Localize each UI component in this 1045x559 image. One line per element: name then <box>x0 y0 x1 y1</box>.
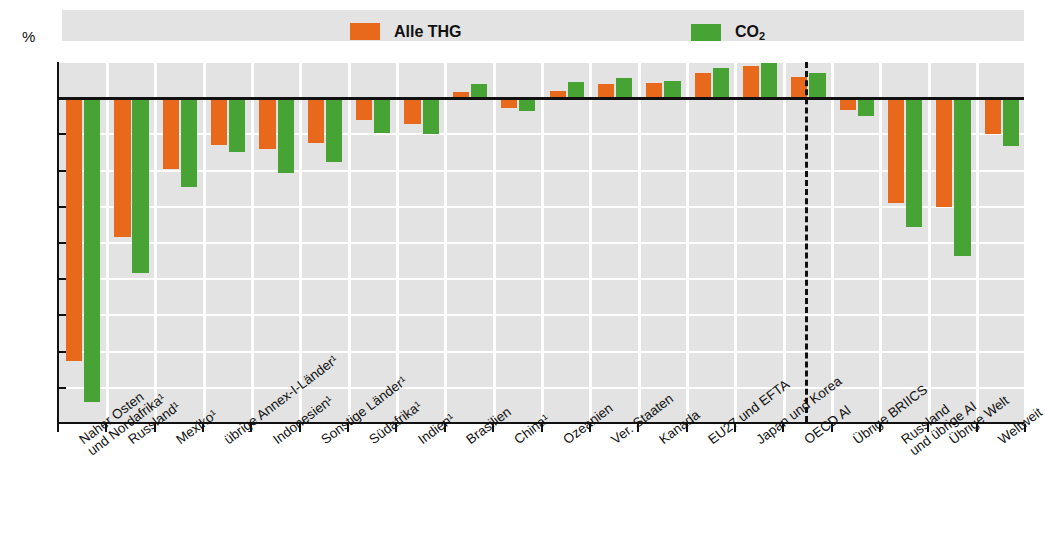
x-axis-tick-mark <box>57 424 59 432</box>
bar-alle-thg <box>259 98 275 149</box>
bar-co2 <box>423 98 439 134</box>
bar-alle-thg <box>404 98 420 123</box>
y-axis-tick-mark <box>59 278 66 280</box>
bar-co2 <box>181 98 197 187</box>
y-axis-tick-mark <box>59 170 66 172</box>
bar-alle-thg <box>308 98 324 143</box>
zero-axis-line <box>59 97 1024 100</box>
bar-co2 <box>278 98 294 173</box>
bar-co2 <box>132 98 148 273</box>
gridline-vertical <box>396 62 399 422</box>
bar-co2 <box>858 98 874 115</box>
bar-alle-thg <box>66 98 82 361</box>
bar-alle-thg <box>211 98 227 145</box>
gridline-vertical <box>879 62 882 422</box>
chart-title-fragment <box>430 0 610 3</box>
legend-item-alle-thg[interactable]: Alle THG <box>350 23 462 40</box>
gridline-vertical <box>638 62 641 422</box>
chart-legend: Alle THG CO2 <box>62 10 1024 41</box>
bar-alle-thg <box>985 98 1001 133</box>
gridline-vertical <box>251 62 254 422</box>
bar-alle-thg <box>743 66 759 98</box>
legend-label-co2: CO2 <box>735 23 765 42</box>
gridline-vertical <box>154 62 157 422</box>
gridline-vertical <box>541 62 544 422</box>
legend-swatch-alle-thg <box>350 23 380 40</box>
bar-alle-thg <box>888 98 904 203</box>
bar-co2 <box>954 98 970 256</box>
gridline-vertical <box>299 62 302 422</box>
bar-alle-thg <box>114 98 130 237</box>
y-axis-tick-mark <box>59 314 66 316</box>
x-axis-labels: Naher Ostenund Nordafrika¹Russland¹Mexik… <box>0 424 1032 559</box>
gridline-vertical <box>348 62 351 422</box>
y-axis-tick-mark <box>59 387 66 389</box>
y-axis-tick-mark <box>59 133 66 135</box>
bar-alle-thg <box>356 98 372 120</box>
y-axis-tick-mark <box>59 206 66 208</box>
bar-alle-thg <box>840 98 856 110</box>
legend-item-co2[interactable]: CO2 <box>691 23 765 42</box>
bar-co2 <box>761 63 777 98</box>
bar-co2 <box>664 81 680 98</box>
gridline-vertical <box>203 62 206 422</box>
gridline-vertical <box>444 62 447 422</box>
bar-alle-thg <box>163 98 179 169</box>
group-separator-dashed-line <box>805 62 808 422</box>
bar-co2 <box>906 98 922 227</box>
bar-co2 <box>519 98 535 111</box>
gridline-vertical <box>831 62 834 422</box>
axis-unit-label: % <box>22 28 35 45</box>
bar-alle-thg <box>936 98 952 207</box>
bar-co2 <box>809 73 825 98</box>
bar-co2 <box>229 98 245 152</box>
bar-co2 <box>713 68 729 98</box>
y-axis-tick-mark <box>59 351 66 353</box>
y-axis-tick-mark <box>59 242 66 244</box>
plot-area: 50-5-10-15-20-25-30-35-40-45 <box>57 62 1024 424</box>
bar-alle-thg <box>695 73 711 98</box>
bar-co2 <box>326 98 342 162</box>
bar-co2 <box>84 98 100 402</box>
gridline-vertical <box>783 62 786 422</box>
bar-co2 <box>1003 98 1019 146</box>
gridline-vertical <box>493 62 496 422</box>
bar-co2 <box>374 98 390 133</box>
legend-swatch-co2 <box>691 24 721 41</box>
gridline-vertical <box>686 62 689 422</box>
bar-co2 <box>616 78 632 98</box>
gridline-vertical <box>976 62 979 422</box>
gridline-vertical <box>734 62 737 422</box>
legend-label-alle-thg: Alle THG <box>394 23 462 40</box>
gridline-vertical <box>106 62 109 422</box>
gridline-vertical <box>928 62 931 422</box>
gridline-vertical <box>589 62 592 422</box>
